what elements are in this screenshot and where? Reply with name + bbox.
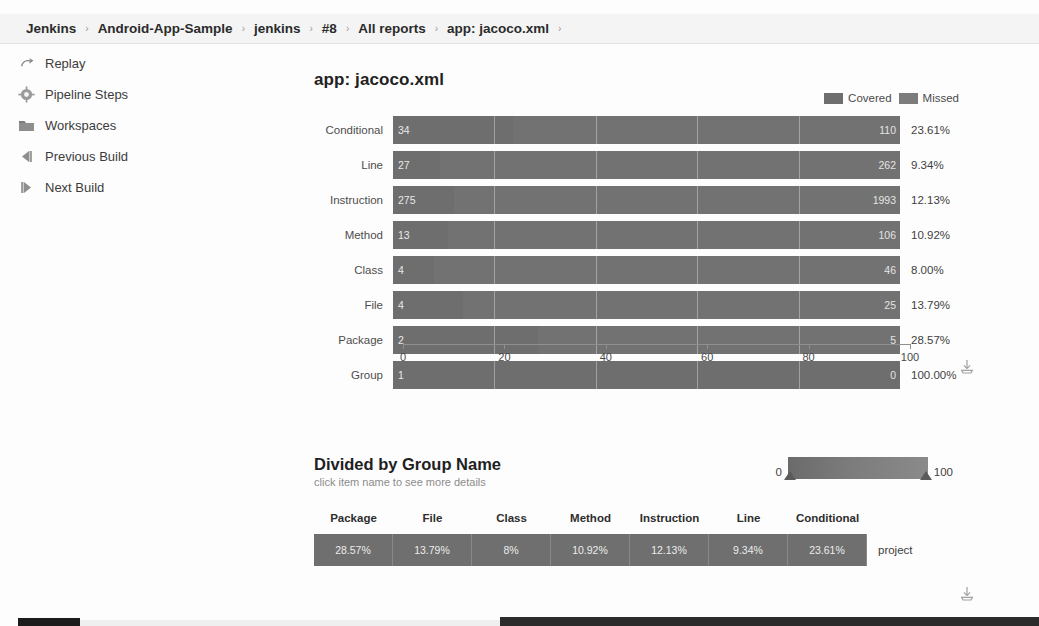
footer-segment-middle bbox=[80, 620, 500, 626]
bar-row[interactable]: File42513.79% bbox=[286, 291, 1031, 319]
bar-segment-missed-value: 46 bbox=[884, 264, 896, 276]
bar-row[interactable]: Conditional3411023.61% bbox=[286, 116, 1031, 144]
chart-gridline bbox=[494, 221, 495, 249]
chart-gridline bbox=[494, 151, 495, 179]
table-cell[interactable]: 28.57% bbox=[314, 534, 393, 566]
table-column-header[interactable]: Package bbox=[314, 512, 393, 524]
table-row[interactable]: 28.57%13.79%8%10.92%12.13%9.34%23.61%pro… bbox=[314, 534, 1004, 566]
bar-row[interactable]: Class4468.00% bbox=[286, 256, 1031, 284]
bar-segment-missed[interactable]: 262 bbox=[440, 151, 900, 179]
group-section: Divided by Group Name click item name to… bbox=[286, 455, 1031, 488]
breadcrumb-item-project[interactable]: Android-App-Sample bbox=[98, 21, 233, 36]
sidebar-item-next-build[interactable]: Next Build bbox=[18, 176, 268, 199]
breadcrumb-item-build[interactable]: #8 bbox=[322, 21, 337, 36]
breadcrumb-item-all-reports[interactable]: All reports bbox=[358, 21, 426, 36]
breadcrumb-item-report[interactable]: app: jacoco.xml bbox=[447, 21, 549, 36]
scale-gradient-bar bbox=[788, 457, 928, 479]
sidebar-item-pipeline-steps[interactable]: Pipeline Steps bbox=[18, 83, 268, 106]
sidebar-item-workspaces[interactable]: Workspaces bbox=[18, 114, 268, 137]
footer-segment-right bbox=[500, 617, 1039, 626]
bar-segment-missed[interactable]: 46 bbox=[434, 256, 900, 284]
chart-gridline bbox=[697, 221, 698, 249]
bar-segment-missed-value: 262 bbox=[878, 159, 896, 171]
breadcrumb-separator-icon: › bbox=[558, 24, 561, 34]
bar-row-label: File bbox=[286, 299, 393, 311]
chart-gridline bbox=[697, 291, 698, 319]
table-cell[interactable]: 8% bbox=[472, 534, 551, 566]
sidebar-item-label: Previous Build bbox=[45, 149, 128, 164]
bar-row[interactable]: Line272629.34% bbox=[286, 151, 1031, 179]
bar-segment-covered[interactable]: 27 bbox=[393, 151, 440, 179]
table-header-row: PackageFileClassMethodInstructionLineCon… bbox=[314, 507, 1004, 529]
chart-x-axis: 020406080100 bbox=[403, 344, 910, 370]
table-column-header[interactable]: Method bbox=[551, 512, 630, 524]
bar-row-label: Instruction bbox=[286, 194, 393, 206]
table-column-header[interactable]: Class bbox=[472, 512, 551, 524]
bar-row-percent: 23.61% bbox=[911, 124, 950, 136]
sidebar-item-previous-build[interactable]: Previous Build bbox=[18, 145, 268, 168]
table-column-header[interactable]: Line bbox=[709, 512, 788, 524]
chart-gridline bbox=[596, 186, 597, 214]
axis-tick-label: 100 bbox=[901, 351, 919, 363]
bar-row-label: Group bbox=[286, 369, 393, 381]
breadcrumb-separator-icon: › bbox=[346, 24, 349, 34]
chart-gridline bbox=[494, 186, 495, 214]
bar-segment-missed-value: 0 bbox=[890, 369, 896, 381]
gear-icon bbox=[18, 86, 35, 103]
table-column-header[interactable]: File bbox=[393, 512, 472, 524]
table-column-header[interactable]: Conditional bbox=[788, 512, 867, 524]
sidebar-item-replay[interactable]: Replay bbox=[18, 52, 268, 75]
table-column-header[interactable]: Instruction bbox=[630, 512, 709, 524]
bar-segment-covered[interactable]: 13 bbox=[393, 221, 448, 249]
chart-gridline bbox=[799, 116, 800, 144]
table-cell[interactable]: 23.61% bbox=[788, 534, 867, 566]
bar-segment-missed[interactable]: 25 bbox=[463, 291, 900, 319]
table-cell[interactable]: 10.92% bbox=[551, 534, 630, 566]
bar-segment-covered-value: 13 bbox=[398, 229, 410, 241]
breadcrumb-item-jenkins[interactable]: Jenkins bbox=[26, 21, 76, 36]
bar-row[interactable]: Instruction275199312.13% bbox=[286, 186, 1031, 214]
scale-max-label: 100 bbox=[934, 466, 953, 479]
bar-segment-covered-value: 4 bbox=[398, 299, 404, 311]
bar-row[interactable]: Method1310610.92% bbox=[286, 221, 1031, 249]
download-icon[interactable] bbox=[958, 585, 976, 603]
chart-gridline bbox=[494, 291, 495, 319]
table-cell[interactable]: 13.79% bbox=[393, 534, 472, 566]
coverage-chart-panel: app: jacoco.xml Covered Missed Condition… bbox=[286, 56, 1031, 416]
chart-gridline bbox=[697, 186, 698, 214]
page-root: Jenkins › Android-App-Sample › jenkins ›… bbox=[0, 0, 1039, 626]
legend-label: Missed bbox=[923, 92, 959, 104]
chart-gridline bbox=[799, 221, 800, 249]
sidebar-item-label: Replay bbox=[45, 56, 85, 71]
bar-row-percent: 9.34% bbox=[911, 159, 944, 171]
chart-gridline bbox=[799, 256, 800, 284]
bar-row-percent: 28.57% bbox=[911, 334, 950, 346]
download-icon[interactable] bbox=[958, 358, 976, 376]
breadcrumb-separator-icon: › bbox=[242, 24, 245, 34]
breadcrumb-separator-icon: › bbox=[310, 24, 313, 34]
replay-icon bbox=[18, 55, 35, 72]
table-cell[interactable]: 9.34% bbox=[709, 534, 788, 566]
bar-segment-missed[interactable]: 106 bbox=[448, 221, 900, 249]
previous-build-icon bbox=[18, 148, 35, 165]
bar-segment-covered[interactable]: 4 bbox=[393, 291, 463, 319]
bar-row-percent: 10.92% bbox=[911, 229, 950, 241]
legend-entry-missed[interactable]: Missed bbox=[899, 92, 959, 104]
breadcrumb: Jenkins › Android-App-Sample › jenkins ›… bbox=[0, 14, 1039, 44]
bar-segment-covered[interactable]: 4 bbox=[393, 256, 434, 284]
bar-track: 2751993 bbox=[393, 186, 900, 214]
chart-legend: Covered Missed bbox=[824, 92, 959, 104]
breadcrumb-item-branch[interactable]: jenkins bbox=[254, 21, 301, 36]
table-row-name[interactable]: project bbox=[878, 544, 913, 556]
chart-gridline bbox=[799, 291, 800, 319]
table-cell[interactable]: 12.13% bbox=[630, 534, 709, 566]
bar-track: 13106 bbox=[393, 221, 900, 249]
axis-tick bbox=[809, 344, 810, 349]
legend-swatch-missed bbox=[899, 93, 918, 104]
bar-segment-missed[interactable]: 110 bbox=[513, 116, 900, 144]
scale-min-label: 0 bbox=[775, 466, 781, 479]
bar-segment-missed[interactable]: 1993 bbox=[454, 186, 900, 214]
legend-entry-covered[interactable]: Covered bbox=[824, 92, 891, 104]
bar-segment-covered[interactable]: 275 bbox=[393, 186, 454, 214]
chart-gridline bbox=[596, 256, 597, 284]
